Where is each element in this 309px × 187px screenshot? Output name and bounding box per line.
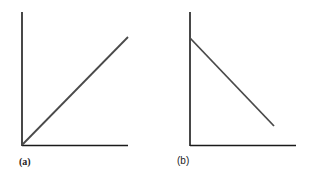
falling-line — [190, 38, 274, 126]
chart-panel-a: (a) — [0, 0, 155, 187]
chart-panel-b: (b) — [155, 0, 309, 187]
rising-line — [22, 37, 128, 145]
panel-label-b: (b) — [177, 155, 189, 166]
panel-label-a: (a) — [19, 156, 31, 167]
